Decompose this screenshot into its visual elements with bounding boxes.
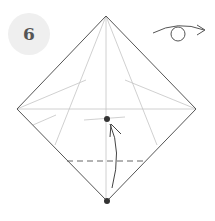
center-dot [104,116,110,122]
fold-up-arrow-icon [110,124,117,188]
origami-diagram [0,0,215,221]
crease-lines [17,16,196,201]
paper-outline [17,16,196,201]
bottom-dot [104,198,110,204]
arrowhead-icon [110,124,121,137]
turn-over-arrow-icon [153,25,205,41]
